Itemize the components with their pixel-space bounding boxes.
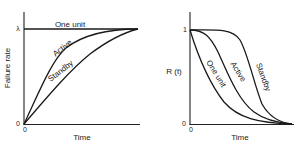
y-axis-label: R (t) (166, 67, 182, 76)
y-axis-label: Failure rate (3, 47, 12, 88)
curve-active (24, 29, 138, 124)
x-axis-label: Time (73, 133, 91, 142)
curve-standby (24, 29, 138, 124)
x-zero-label: 0 (23, 126, 27, 133)
y-zero-label: 0 (16, 120, 20, 127)
lambda-tick-label: λ (16, 25, 20, 32)
label-active: Active (51, 37, 74, 58)
label-one-unit: One unit (204, 58, 228, 89)
reliability-chart: 1 0 0 One unit Active Standby R (t) Time (166, 12, 294, 142)
x-zero-label: 0 (189, 126, 193, 133)
x-axis-label: Time (231, 133, 249, 142)
figure: λ 0 0 One unit Active Standby Failure ra… (0, 0, 298, 150)
label-one-unit: One unit (55, 20, 86, 29)
one-tick-label: 1 (183, 26, 187, 33)
failure-rate-chart: λ 0 0 One unit Active Standby Failure ra… (3, 12, 140, 142)
y-zero-label: 0 (182, 120, 186, 127)
